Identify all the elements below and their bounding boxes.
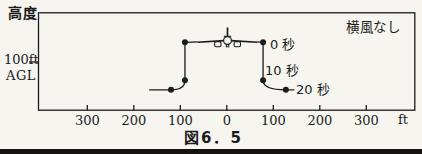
nose-gear [226, 45, 229, 47]
time-label-10s: 10 秒 [265, 64, 299, 78]
y-ref-agl: AGL [6, 69, 36, 83]
page-edge-bar [0, 149, 422, 154]
aircraft-front-view-icon [185, 28, 263, 47]
x-tick-label: 100 [261, 113, 286, 128]
x-axis-ticks [87, 105, 366, 110]
x-tick-label: 200 [307, 113, 332, 128]
x-axis-tick-labels: 3002001000100200300 [0, 113, 422, 129]
x-tick-label: 300 [75, 113, 100, 128]
y-ref-100ft: 100ft [4, 53, 39, 67]
data-point [182, 77, 188, 83]
x-tick-label: 300 [354, 113, 379, 128]
path-left [149, 42, 185, 90]
left-engine [215, 42, 221, 47]
x-tick-label: 100 [168, 113, 193, 128]
data-point [168, 87, 174, 93]
x-axis-unit-ft: ft [398, 113, 408, 127]
right-engine [234, 42, 240, 47]
data-point [283, 87, 289, 93]
y-axis-title: 高度 [8, 6, 38, 21]
time-label-20s: 20 秒 [296, 83, 330, 97]
fuselage [224, 37, 232, 45]
time-label-0s: 0 秒 [270, 38, 295, 52]
x-tick-label: 0 [223, 113, 231, 128]
figure-6-5-crosswind-landing-figure: 高度 100ft AGL 横風なし 0 秒 10 秒 20 秒 30020010… [0, 0, 422, 154]
x-tick-label: 200 [121, 113, 146, 128]
data-point [260, 77, 266, 83]
figure-caption: 図6．5 [184, 131, 243, 147]
no-crosswind-annotation: 横風なし [346, 20, 400, 34]
